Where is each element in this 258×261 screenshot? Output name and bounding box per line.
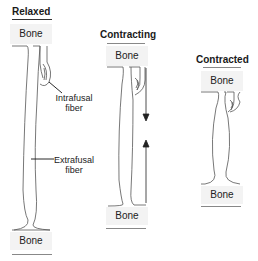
contracted-intrafusal-spindle <box>227 92 240 112</box>
contracting-up-arrow-icon <box>143 140 149 203</box>
relaxed-intrafusal-spindle <box>40 46 51 86</box>
intrafusal-leader-line <box>49 82 62 93</box>
contracting-extrafusal-muscle <box>107 67 146 206</box>
relaxed-extrafusal-muscle <box>12 46 50 230</box>
contracting-intrafusal-spindle <box>131 67 145 95</box>
contracting-down-arrow-icon <box>143 68 149 121</box>
muscle-diagram-art <box>0 0 258 261</box>
contracted-extrafusal-muscle <box>201 92 240 184</box>
